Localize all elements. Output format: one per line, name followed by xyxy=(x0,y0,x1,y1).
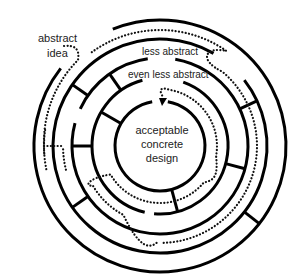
label-even-less-abstract: even less abstract xyxy=(128,69,209,80)
wall-spoke xyxy=(244,212,259,224)
wall-spoke xyxy=(101,112,121,124)
label-abstract-idea-line2: idea xyxy=(47,47,69,59)
route-segment-inner xyxy=(88,89,217,246)
label-center-line2: concrete xyxy=(141,138,183,150)
wall-ring-4b xyxy=(92,80,145,212)
label-center-line1: acceptable xyxy=(135,124,188,136)
maze-diagram: abstract idea less abstract even less ab… xyxy=(0,0,304,280)
wall-spoke xyxy=(72,196,88,207)
label-less-abstract: less abstract xyxy=(142,46,198,57)
label-center-line3: design xyxy=(146,152,178,164)
wall-spoke xyxy=(72,85,88,96)
arrowhead-icon xyxy=(159,98,167,106)
label-abstract-idea-line1: abstract xyxy=(38,32,77,44)
wall-spoke xyxy=(226,164,245,169)
wall-spoke xyxy=(110,74,121,90)
